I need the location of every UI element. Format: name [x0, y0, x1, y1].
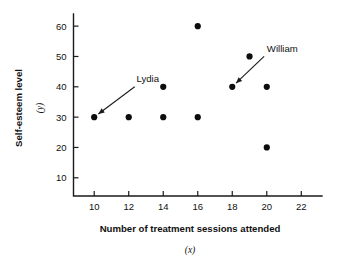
- y-tick-label: 50: [56, 51, 67, 62]
- x-axis-variable: (x): [185, 245, 196, 256]
- y-tick-label: 40: [56, 81, 67, 92]
- plot-canvas: 10121416182022 102030405060 LydiaWilliam…: [0, 0, 339, 261]
- data-point: [160, 114, 166, 120]
- x-tick-label: 14: [158, 201, 169, 212]
- x-tick-label: 22: [296, 201, 307, 212]
- data-points-group: [91, 23, 270, 151]
- y-tick-label: 60: [56, 21, 67, 32]
- scatter-plot-figure: 10121416182022 102030405060 LydiaWilliam…: [0, 0, 339, 261]
- data-point: [126, 114, 132, 120]
- data-point: [264, 144, 270, 150]
- x-tick-label: 16: [192, 201, 203, 212]
- y-axis-ticks: 102030405060: [56, 21, 79, 184]
- data-point: [195, 114, 201, 120]
- data-point: [195, 23, 201, 29]
- y-axis-variable: (y): [35, 103, 46, 114]
- x-axis-ticks: 10121416182022: [89, 191, 307, 212]
- data-point: [91, 114, 97, 120]
- x-tick-label: 20: [261, 201, 272, 212]
- y-tick-label: 20: [56, 142, 67, 153]
- data-point: [246, 53, 252, 59]
- y-tick-label: 10: [56, 172, 67, 183]
- annotations-group: LydiaWilliam: [98, 43, 297, 114]
- annotation-label: William: [267, 43, 298, 54]
- x-tick-label: 10: [89, 201, 100, 212]
- data-point: [160, 84, 166, 90]
- y-axis-title: Self-esteem level: [13, 69, 24, 147]
- annotation-arrow-head: [98, 108, 104, 114]
- x-axis-title: Number of treatment sessions attended: [100, 223, 281, 234]
- annotation-label: Lydia: [136, 73, 159, 84]
- data-point: [229, 84, 235, 90]
- y-tick-label: 30: [56, 112, 67, 123]
- x-tick-label: 12: [123, 201, 134, 212]
- data-point: [264, 84, 270, 90]
- x-tick-label: 18: [227, 201, 238, 212]
- annotation-arrow-line: [98, 87, 134, 114]
